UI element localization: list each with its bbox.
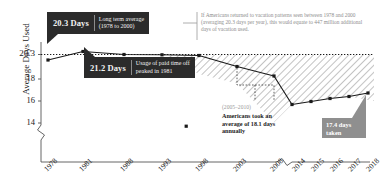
- callout-long-term-average: 20.3 Days Long term average (1978 to 200…: [47, 12, 149, 34]
- callout-peak-value: 21.2 Days: [84, 63, 131, 73]
- y-tick-18: 18: [9, 73, 35, 83]
- isolated-data-marker: [185, 125, 188, 128]
- note-period-label: (2005–2010): [222, 104, 284, 112]
- y-axis: [38, 42, 45, 162]
- note-period-body: Americans took an average of 18.1 days a…: [222, 112, 284, 135]
- y-tick-14: 14: [9, 117, 35, 127]
- y-axis-title: Average Days Used: [21, 9, 31, 109]
- note-leader-line: [183, 12, 197, 40]
- note-2005-2010: (2005–2010) Americans took an average of…: [222, 104, 284, 135]
- callout-long-term-description: Long term average (1978 to 2000): [95, 16, 149, 31]
- y-tick-16: 16: [9, 95, 35, 105]
- callout-peak-description: Usage of paid time off peaked in 1981: [132, 60, 195, 75]
- callout-days-taken: 17.4 days taken: [322, 118, 366, 138]
- callout-tails: [47, 34, 95, 57]
- note-returned-patterns: If Americans returned to vacation patter…: [201, 12, 373, 34]
- callout-long-term-value: 20.3 Days: [47, 18, 94, 28]
- callout-peak-usage: 21.2 Days Usage of paid time off peaked …: [84, 57, 195, 78]
- y-tick-20-3: 20.3: [5, 48, 35, 58]
